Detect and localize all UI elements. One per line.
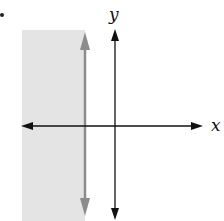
y-axis-label: y: [109, 4, 119, 24]
x-axis-arrow-right-icon: [191, 122, 203, 130]
y-axis: [111, 29, 119, 220]
y-axis-arrow-up-icon: [111, 29, 119, 41]
inequality-graph: [0, 0, 224, 221]
x-axis-label: x: [211, 115, 221, 135]
y-axis-arrow-down-icon: [111, 208, 119, 220]
